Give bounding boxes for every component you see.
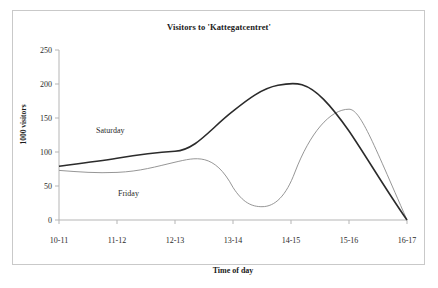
y-tick-marks xyxy=(55,50,59,220)
series-line-friday xyxy=(59,109,407,220)
x-tick-marks xyxy=(59,220,407,224)
chart-figure: Visitors to 'Kattegatcentret' 1000 visit… xyxy=(0,0,438,288)
plot-area xyxy=(0,0,438,288)
series-line-saturday xyxy=(59,84,407,220)
